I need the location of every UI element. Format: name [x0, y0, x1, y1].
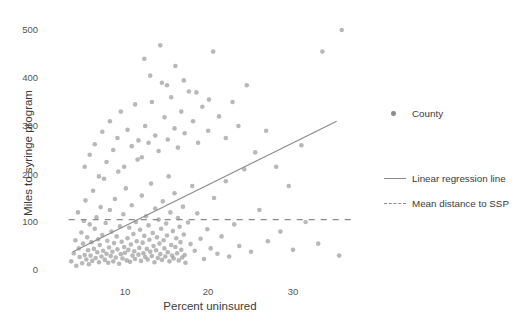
x-tick-20: 20: [193, 286, 223, 297]
data-point: [162, 115, 167, 120]
data-point: [274, 165, 279, 170]
data-point: [177, 225, 182, 230]
data-point: [158, 43, 163, 48]
data-point: [113, 197, 118, 202]
data-point: [137, 246, 142, 251]
data-point: [82, 165, 87, 170]
data-point: [232, 222, 237, 227]
data-point: [191, 119, 196, 124]
data-point: [171, 229, 176, 234]
data-point: [76, 210, 81, 215]
data-point: [159, 226, 164, 231]
data-point: [134, 239, 139, 244]
data-point: [119, 252, 124, 257]
data-point: [120, 256, 125, 261]
data-point: [88, 253, 93, 258]
data-point: [105, 238, 110, 243]
data-point: [82, 253, 87, 258]
legend-key-dashed-line-icon: [382, 196, 408, 210]
data-point: [182, 232, 187, 237]
data-point: [146, 141, 151, 146]
data-point: [77, 255, 82, 260]
data-point: [151, 244, 156, 249]
data-point: [278, 229, 283, 234]
data-point: [169, 95, 174, 100]
data-point: [245, 83, 250, 88]
data-point: [119, 109, 124, 114]
data-point: [92, 142, 97, 147]
data-point: [196, 141, 201, 146]
data-point: [175, 251, 180, 256]
data-point: [91, 189, 96, 194]
data-point: [181, 204, 186, 209]
data-point: [156, 149, 161, 154]
data-point: [138, 227, 143, 232]
data-point: [115, 136, 120, 141]
data-point: [169, 243, 174, 248]
data-point: [202, 257, 207, 262]
data-point: [136, 138, 141, 143]
data-point: [257, 208, 262, 213]
data-point: [182, 78, 187, 83]
data-point: [143, 124, 148, 129]
data-point: [205, 227, 210, 232]
data-point: [219, 234, 224, 239]
data-point: [182, 131, 187, 136]
data-point: [103, 221, 108, 226]
data-point: [95, 250, 100, 255]
data-point: [194, 90, 199, 95]
data-point: [87, 153, 92, 158]
scatter-plot-figure: 500 400 300 200 100 0 10 20 30 Miles to …: [0, 0, 519, 333]
data-point: [166, 174, 171, 179]
data-point: [160, 81, 165, 86]
data-point: [135, 157, 140, 162]
data-point: [164, 221, 169, 226]
data-point: [183, 261, 188, 266]
data-point: [299, 143, 304, 148]
data-point: [166, 250, 171, 255]
data-point: [69, 259, 74, 264]
data-point: [337, 253, 342, 258]
data-point: [172, 126, 177, 131]
data-point: [153, 133, 158, 138]
data-point: [187, 89, 192, 94]
data-point: [287, 184, 292, 189]
data-point: [115, 247, 120, 252]
legend-label-mean-distance: Mean distance to SSP: [412, 198, 509, 209]
data-point: [85, 235, 90, 240]
data-point: [140, 240, 145, 245]
data-point: [150, 100, 155, 105]
data-point: [139, 259, 144, 264]
data-point: [158, 252, 163, 257]
data-point: [116, 169, 121, 174]
data-point: [98, 243, 103, 248]
reference-lines-layer: [69, 121, 352, 252]
data-point: [74, 263, 79, 268]
data-point: [124, 186, 129, 191]
data-point: [173, 245, 178, 250]
data-point: [237, 244, 242, 249]
data-point: [110, 249, 115, 254]
data-point: [117, 261, 122, 266]
y-tick-500: 500: [4, 24, 38, 35]
data-point: [102, 177, 107, 182]
data-point: [94, 215, 99, 220]
data-point: [339, 28, 344, 33]
data-point: [224, 179, 229, 184]
data-point: [107, 245, 112, 250]
data-point: [142, 234, 147, 239]
data-point: [224, 136, 229, 141]
data-point: [136, 252, 141, 257]
legend-label-county: County: [412, 108, 443, 119]
data-point: [168, 210, 173, 215]
data-point: [131, 232, 136, 237]
data-point: [176, 145, 181, 150]
data-point: [163, 254, 168, 259]
data-point: [266, 239, 271, 244]
data-point: [157, 241, 162, 246]
data-point: [121, 212, 126, 217]
data-point: [128, 260, 133, 265]
data-point: [188, 242, 193, 247]
data-point: [133, 257, 138, 262]
data-point: [86, 248, 91, 253]
